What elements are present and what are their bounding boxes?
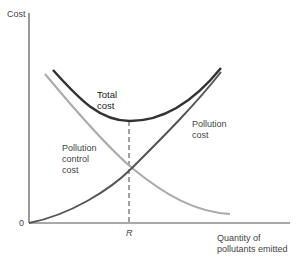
pollution-cost-curve	[29, 72, 221, 223]
cost-chart: Cost 0 R Total cost Pollution cost Pollu…	[0, 0, 301, 266]
pollution-cost-label-1: Pollution	[192, 119, 227, 129]
control-cost-label-3: cost	[62, 165, 79, 175]
control-cost-label-1: Pollution	[62, 143, 97, 153]
origin-label: 0	[19, 218, 24, 228]
pollution-cost-label-2: cost	[192, 130, 209, 140]
x-axis-label-1: Quantity of	[217, 233, 261, 243]
r-tick-label: R	[126, 228, 133, 238]
control-cost-label-2: control	[62, 154, 89, 164]
total-cost-label-1: Total	[97, 89, 117, 100]
x-axis-label-2: pollutants emitted	[217, 244, 288, 254]
total-cost-label-2: cost	[97, 100, 115, 111]
y-axis-label: Cost	[7, 9, 26, 19]
